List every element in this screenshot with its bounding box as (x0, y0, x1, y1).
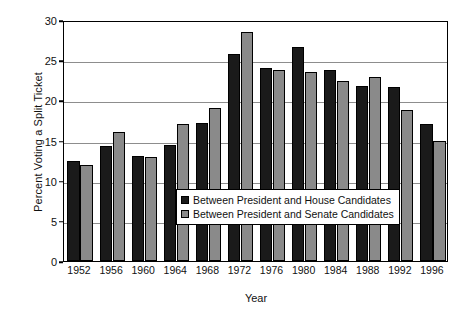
legend-swatch-house-icon (181, 196, 189, 204)
bar-group (196, 22, 221, 261)
bar-group (388, 22, 413, 261)
bar (209, 108, 221, 261)
bar (433, 141, 445, 262)
bar (388, 87, 400, 261)
x-tick-label: 1960 (132, 264, 155, 276)
x-tick-label: 1988 (356, 264, 379, 276)
x-tick-label: 1952 (67, 264, 90, 276)
plot-area (63, 21, 448, 262)
y-tick-label: 5 (15, 216, 57, 228)
bar (324, 70, 336, 261)
bar (145, 157, 157, 261)
bar (305, 72, 317, 261)
bar (420, 124, 432, 261)
legend-label-house: Between President and House Candidates (193, 194, 391, 206)
legend-item-senate: Between President and Senate Candidates (181, 207, 394, 221)
y-axis-tick-container: 051015202530 (0, 0, 57, 311)
x-tick-label: 1964 (164, 264, 187, 276)
chart-legend: Between President and House Candidates B… (176, 189, 400, 225)
bar (164, 145, 176, 261)
bar (241, 32, 253, 261)
x-tick-label: 1972 (228, 264, 251, 276)
x-tick-label: 1956 (99, 264, 122, 276)
bar (228, 54, 240, 261)
bar (356, 86, 368, 261)
bar-group (420, 22, 445, 261)
bar-group (228, 22, 253, 261)
bar (132, 156, 144, 261)
bar-group (356, 22, 381, 261)
y-tick-label: 15 (15, 136, 57, 148)
bar-group (260, 22, 285, 261)
bar-group (292, 22, 317, 261)
x-tick-label: 1984 (324, 264, 347, 276)
x-tick-label: 1992 (388, 264, 411, 276)
bar-group (67, 22, 92, 261)
bar (369, 77, 381, 261)
bar (292, 47, 304, 261)
legend-item-house: Between President and House Candidates (181, 193, 394, 207)
bar (67, 161, 79, 261)
y-tick-label: 20 (15, 95, 57, 107)
x-tick-label: 1996 (420, 264, 443, 276)
bar-group (100, 22, 125, 261)
split-ticket-bar-chart: Percent Voting a Split Ticket 0510152025… (0, 0, 458, 311)
x-axis-title: Year (60, 292, 452, 304)
y-tick-label: 0 (15, 256, 57, 268)
x-axis-tick-container: 1952195619601964196819721976198019841988… (63, 264, 448, 284)
x-tick-label: 1976 (260, 264, 283, 276)
y-tick-label: 25 (15, 55, 57, 67)
bar-group (164, 22, 189, 261)
y-tick-label: 30 (15, 15, 57, 27)
x-tick-label: 1980 (292, 264, 315, 276)
bars-layer (64, 22, 447, 261)
x-tick-label: 1968 (196, 264, 219, 276)
bar (260, 68, 272, 261)
bar (401, 110, 413, 261)
bar-group (132, 22, 157, 261)
legend-label-senate: Between President and Senate Candidates (193, 208, 394, 220)
bar (113, 132, 125, 261)
bar-group (324, 22, 349, 261)
y-tick-label: 10 (15, 176, 57, 188)
bar (100, 146, 112, 261)
bar (80, 165, 92, 261)
bar (337, 81, 349, 261)
legend-swatch-senate-icon (181, 210, 189, 218)
bar (273, 70, 285, 261)
